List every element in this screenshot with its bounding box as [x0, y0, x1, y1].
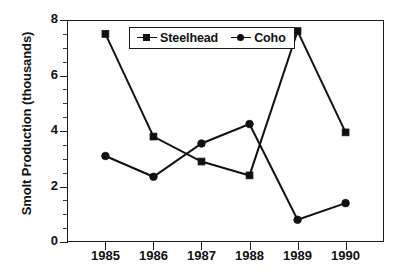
- legend-line-steelhead: [137, 33, 157, 43]
- x-axis-major-tick: [346, 242, 347, 250]
- legend-item-coho: Coho: [231, 31, 286, 45]
- y-axis-tick-label: 8: [14, 11, 58, 26]
- y-axis-tick-label: 2: [14, 178, 58, 193]
- legend-label-steelhead: Steelhead: [160, 31, 218, 45]
- y-axis-tick-label: 4: [14, 122, 58, 137]
- legend-label-coho: Coho: [254, 31, 286, 45]
- y-axis-major-tick: [60, 242, 68, 243]
- x-axis-major-tick: [105, 242, 106, 250]
- x-axis-major-tick: [201, 242, 202, 250]
- x-axis-major-tick: [153, 242, 154, 250]
- x-axis-tick-label: 1990: [316, 248, 376, 263]
- legend-item-steelhead: Steelhead: [137, 31, 218, 45]
- chart-legend: Steelhead Coho: [129, 27, 295, 49]
- plot-area: [67, 20, 384, 242]
- circle-marker-icon: [237, 34, 244, 41]
- square-marker-icon: [143, 34, 150, 41]
- x-axis-major-tick: [298, 242, 299, 250]
- y-axis-tick-label: 6: [14, 67, 58, 82]
- legend-line-coho: [231, 33, 251, 43]
- y-axis-tick-label: 0: [14, 233, 58, 248]
- x-axis-major-tick: [250, 242, 251, 250]
- chart-figure: Smolt Production (thousands) 02468 19851…: [0, 0, 398, 279]
